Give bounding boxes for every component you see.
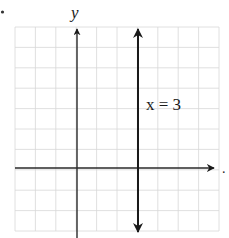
y-axis-label: y [69,3,79,22]
grid-lines [15,27,219,231]
x-axis-trailing-mark: . [222,161,226,176]
graph-plot: y x = 3 . [0,0,229,238]
line-label: x = 3 [146,95,181,114]
item-marker-dot [1,10,4,13]
